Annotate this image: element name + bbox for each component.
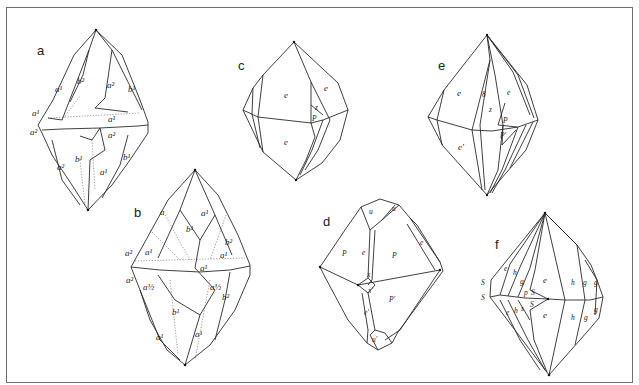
- face-label: b²: [77, 76, 85, 86]
- face-label: e′: [364, 308, 369, 317]
- crystal-f-edge: [545, 213, 565, 375]
- crystal-d-edge: [362, 293, 368, 343]
- crystal-e-edge: [510, 122, 533, 168]
- face-label: e: [543, 275, 547, 285]
- face-label: b¹: [172, 307, 180, 317]
- crystal-f-edge: [508, 213, 545, 296]
- face-label: h: [571, 313, 575, 322]
- crystal-c-apex: [293, 41, 295, 43]
- face-label: b¹: [75, 154, 83, 164]
- crystal-figure: a a¹ b² a² b¹ a¹ a¹ a² a² b¹ a² b¹ a¹ b: [0, 0, 639, 385]
- crystal-f-girdle: [490, 295, 603, 300]
- face-label: b¹: [128, 84, 136, 94]
- crystal-b-girdle: [131, 266, 250, 272]
- face-label: a½: [210, 282, 222, 292]
- crystal-f-edge: [518, 300, 530, 320]
- crystal-a-edge: [96, 30, 142, 110]
- face-label: e: [324, 83, 328, 93]
- face-label: P: [341, 249, 347, 258]
- face-label: a¹: [32, 108, 40, 118]
- crystal-b-hidden-edge: [165, 215, 190, 260]
- face-label: e: [420, 238, 424, 247]
- face-label: e: [507, 88, 511, 97]
- panel-label-d: d: [323, 214, 330, 229]
- crystal-e-girdle: [428, 117, 538, 131]
- face-label: h: [514, 306, 518, 315]
- face-label: b²: [225, 237, 233, 247]
- face-label: u: [369, 207, 373, 216]
- face-label: h: [571, 278, 575, 287]
- face-label: a²: [125, 248, 133, 258]
- face-label: b²: [222, 292, 230, 302]
- crystal-b-outline: [131, 170, 250, 365]
- face-label: P: [502, 116, 508, 125]
- crystal-c-apex: [295, 179, 297, 181]
- face-label: b¹: [123, 152, 131, 162]
- face-label: s: [521, 304, 524, 313]
- crystal-f-apex: [544, 212, 547, 215]
- face-label: g: [583, 278, 587, 287]
- crystal-e-edge: [487, 35, 503, 195]
- crystal-b-hidden-edge: [150, 230, 180, 260]
- face-label: g: [520, 277, 524, 286]
- face-label: P: [311, 114, 317, 123]
- face-label: e: [362, 248, 366, 257]
- crystal-b-apex: [194, 169, 197, 172]
- face-label: a½: [143, 282, 155, 292]
- face-label: a²: [108, 130, 116, 140]
- face-label: a¹: [200, 263, 208, 273]
- face-label: S: [530, 300, 534, 309]
- crystal-a-outline: [38, 30, 148, 210]
- crystal-e-apex: [486, 34, 488, 36]
- crystal-d-vertex: [357, 284, 359, 286]
- face-label: e: [457, 88, 461, 98]
- crystal-a-edge: [52, 140, 80, 205]
- face-label: b¹: [186, 224, 194, 234]
- panel-label-e: e: [438, 58, 445, 73]
- face-label: e: [284, 137, 288, 147]
- crystal-f-outline: [490, 213, 603, 375]
- face-label: a¹: [195, 329, 203, 339]
- panel-label-b: b: [134, 205, 141, 220]
- panel-label-a: a: [37, 43, 45, 58]
- face-label: a: [160, 207, 165, 217]
- crystal-a: a a¹ b² a² b¹ a¹ a¹ a² a² b¹ a² b¹ a¹: [30, 29, 148, 212]
- face-label: g: [594, 278, 598, 287]
- crystal-c-edge: [258, 75, 263, 152]
- face-label: S: [481, 293, 485, 302]
- crystal-d-edge: [320, 267, 440, 285]
- crystal-f-edge: [545, 213, 585, 345]
- face-label: h: [513, 268, 517, 277]
- face-label: a²: [107, 80, 115, 90]
- face-label: z: [488, 105, 492, 114]
- panel-label-f: f: [495, 237, 499, 252]
- face-label: e: [543, 310, 547, 320]
- crystal-f-apex: [548, 374, 551, 377]
- face-label: P′: [499, 131, 507, 140]
- face-label: g: [584, 313, 588, 322]
- crystal-b-hidden-edge: [170, 280, 178, 355]
- face-label: a²: [126, 275, 134, 285]
- face-label: x′: [367, 286, 373, 295]
- face-label: S: [531, 288, 535, 297]
- face-label: 8: [482, 90, 486, 99]
- crystal-d-outline: [320, 199, 443, 350]
- crystal-b: b a b¹ a¹ a¹ a² b² a¹ a¹ a² a½ a½ b² b¹ …: [125, 169, 250, 367]
- face-label: a¹: [201, 208, 209, 218]
- face-label: e: [506, 308, 510, 317]
- crystal-a-apex: [87, 209, 90, 212]
- face-label: P′: [388, 295, 396, 304]
- face-label: z: [314, 103, 318, 112]
- crystal-b-edge: [185, 240, 215, 365]
- crystal-e: e e 8 e z P P′ e′: [428, 34, 538, 196]
- face-label: a¹: [100, 167, 108, 177]
- crystal-c-edge: [300, 120, 323, 175]
- face-label: e: [284, 90, 288, 100]
- face-label: P: [391, 251, 397, 260]
- crystal-a-apex: [95, 29, 98, 32]
- face-label: u: [392, 204, 396, 213]
- crystal-a-girdle: [42, 125, 148, 130]
- crystal-b-apex: [184, 364, 187, 367]
- crystal-b-edge: [140, 290, 180, 360]
- face-label: a¹: [108, 114, 116, 124]
